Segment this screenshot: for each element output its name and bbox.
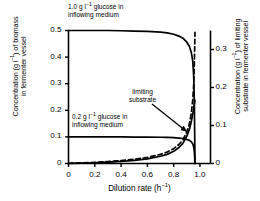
x-tick-0: 0 [56, 170, 82, 179]
y-left-tick-0.1: 0.1 [40, 131, 62, 140]
y-right-tick-0.3: 0.3 [216, 44, 238, 53]
x-tick-0.4: 0.4 [108, 170, 134, 179]
y-right-tick-0: 0 [216, 158, 238, 167]
y-left-tick-0: 0 [40, 158, 62, 167]
curve-3 [69, 100, 195, 163]
y-left-tick-0.5: 0.5 [40, 25, 62, 34]
curve-2 [69, 32, 195, 163]
curve-0 [69, 31, 195, 164]
y-left-tick-0.3: 0.3 [40, 78, 62, 87]
limiting-substrate-arrow [152, 104, 186, 131]
x-tick-0.6: 0.6 [134, 170, 160, 179]
axes-frame [69, 31, 211, 164]
y-left-tick-0.2: 0.2 [40, 105, 62, 114]
y-right-tick-0.2: 0.2 [216, 82, 238, 91]
data-curves [69, 31, 195, 164]
x-tick-0.2: 0.2 [82, 170, 108, 179]
y-left-tick-0.4: 0.4 [40, 52, 62, 61]
x-tick-0.8: 0.8 [161, 170, 187, 179]
x-tick-1.0: 1.0 [187, 170, 213, 179]
y-right-tick-0.1: 0.1 [216, 120, 238, 129]
chemostat-chart: Concentration (g l−1) of biomassin ferme… [0, 0, 260, 201]
